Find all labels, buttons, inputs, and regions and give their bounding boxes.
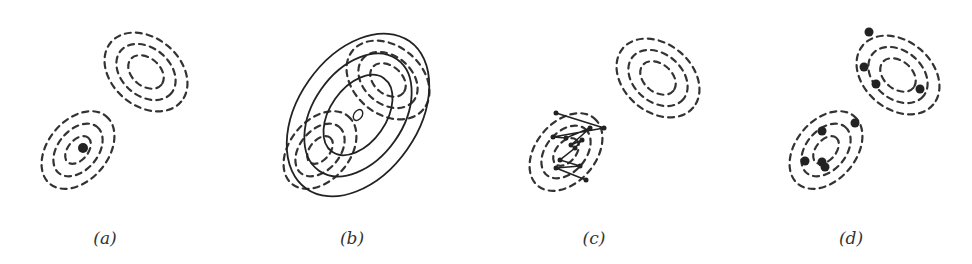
- panel-c-walk-point: [569, 143, 574, 148]
- panel-c-top-contours: [601, 22, 715, 133]
- panel-c-walk-point: [578, 164, 583, 169]
- panel-c-walk-point: [573, 146, 578, 151]
- panel-b-gaussian-ellipses: [257, 7, 459, 223]
- panel-d-sample-point: [821, 163, 830, 172]
- panel-c-walk-point: [554, 166, 559, 171]
- panel-c-walk-point: [588, 126, 593, 131]
- panel-label-c: (c): [583, 228, 606, 248]
- panel-a-bottom-contours: [27, 97, 130, 203]
- panel-label-a: (a): [93, 228, 116, 248]
- panel-d-sample-point: [916, 85, 925, 94]
- panel-d-sample-point: [851, 119, 860, 128]
- figure-canvas: [0, 0, 972, 264]
- panel-d-top-contours: [841, 19, 955, 130]
- panel-b-center-ellipse: [351, 108, 364, 122]
- panel-d-sample-point: [801, 157, 810, 166]
- panel-c-walk-point: [584, 178, 589, 183]
- panel-c-random-walk-path: [553, 113, 604, 180]
- panel-d-sample-point: [872, 80, 881, 89]
- panel-c-walk-point: [564, 136, 569, 141]
- panel-d-sample-point: [860, 63, 869, 72]
- panel-c-walk-point: [551, 135, 556, 140]
- panel-label-b: (b): [340, 228, 364, 248]
- panel-c-walk-point: [554, 111, 559, 116]
- panel-a-mode-point: [78, 143, 88, 153]
- panel-c-walk-point: [602, 126, 607, 131]
- panel-a-top-contours: [89, 16, 203, 127]
- panel-d-bottom-contours: [775, 97, 878, 203]
- panel-d-sample-point: [818, 127, 827, 136]
- panel-c-walk-point: [558, 158, 563, 163]
- panel-d-sample-point: [865, 28, 874, 37]
- panel-c-bottom-contours: [515, 99, 618, 205]
- panel-c-walk-point: [580, 138, 585, 143]
- panel-label-d: (d): [839, 228, 863, 248]
- panel-b-bottom-contours: [269, 97, 372, 203]
